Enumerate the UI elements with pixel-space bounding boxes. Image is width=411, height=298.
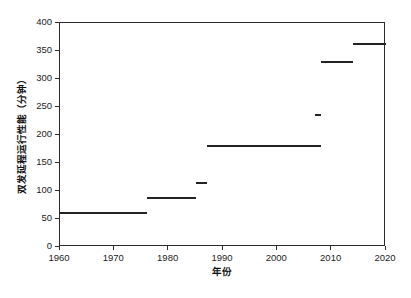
y-tick-label: 300 bbox=[36, 71, 52, 84]
x-tick-label: 1960 bbox=[41, 252, 77, 264]
x-tick-mark bbox=[330, 246, 331, 250]
data-segment bbox=[60, 212, 147, 214]
x-tick-mark bbox=[59, 246, 60, 250]
x-tick-mark bbox=[385, 246, 386, 250]
x-tick-mark bbox=[276, 246, 277, 250]
y-axis-title: 双发延程运行性能（分钟） bbox=[14, 22, 30, 246]
x-axis-title: 年份 bbox=[59, 265, 385, 279]
data-segment bbox=[147, 197, 196, 199]
y-tick-label: 400 bbox=[36, 15, 52, 28]
x-tick-label: 2000 bbox=[258, 252, 294, 264]
data-segment bbox=[321, 61, 354, 63]
x-tick-label: 1970 bbox=[95, 252, 131, 264]
x-tick-mark bbox=[167, 246, 168, 250]
y-tick-label: 100 bbox=[36, 183, 52, 196]
x-tick-label: 2010 bbox=[313, 252, 349, 264]
y-tick-label: 50 bbox=[41, 211, 52, 224]
x-tick-mark bbox=[222, 246, 223, 250]
x-tick-label: 2020 bbox=[367, 252, 403, 264]
chart-container: 双发延程运行性能（分钟） 050100150200250300350400 19… bbox=[0, 0, 411, 298]
y-tick-label: 350 bbox=[36, 43, 52, 56]
x-tick-label: 1990 bbox=[204, 252, 240, 264]
plot-area bbox=[59, 22, 385, 246]
data-segment bbox=[207, 145, 321, 147]
y-tick-label: 0 bbox=[47, 239, 52, 252]
data-segment bbox=[353, 43, 386, 45]
y-tick-label: 250 bbox=[36, 99, 52, 112]
data-segment bbox=[315, 114, 320, 116]
x-tick-label: 1980 bbox=[150, 252, 186, 264]
data-segment bbox=[196, 182, 207, 184]
x-tick-mark bbox=[113, 246, 114, 250]
y-tick-label: 200 bbox=[36, 127, 52, 140]
y-tick-label: 150 bbox=[36, 155, 52, 168]
